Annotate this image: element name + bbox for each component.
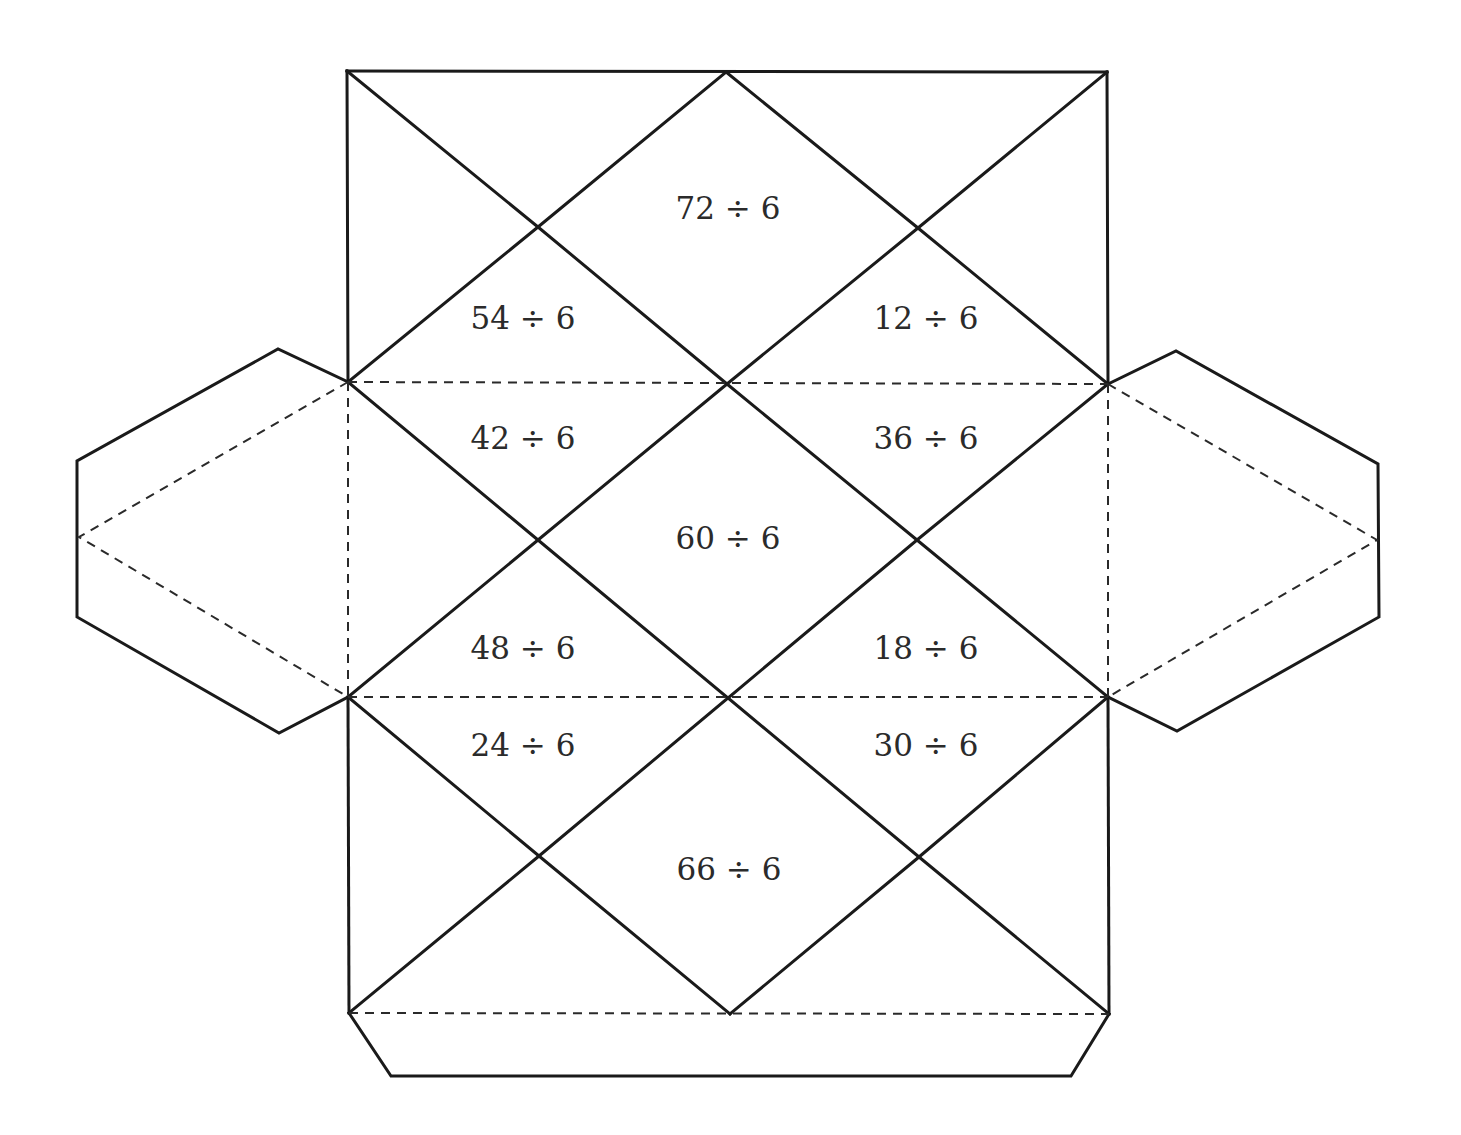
face-label-lower-left: 24 ÷ 6: [471, 727, 576, 763]
face-label-mid-lower-right: 18 ÷ 6: [874, 630, 979, 666]
face-label-upper-left: 54 ÷ 6: [471, 300, 576, 336]
face-labels: 72 ÷ 6 54 ÷ 6 12 ÷ 6 42 ÷ 6 36 ÷ 6 60 ÷ …: [471, 190, 979, 887]
face-label-mid-upper-left: 42 ÷ 6: [471, 420, 576, 456]
face-label-mid-upper-right: 36 ÷ 6: [874, 420, 979, 456]
octahedron-net: 72 ÷ 6 54 ÷ 6 12 ÷ 6 42 ÷ 6 36 ÷ 6 60 ÷ …: [0, 0, 1461, 1135]
face-label-bottom-center: 66 ÷ 6: [677, 851, 782, 887]
face-label-mid-lower-left: 48 ÷ 6: [471, 630, 576, 666]
face-label-center: 60 ÷ 6: [676, 520, 781, 556]
face-label-lower-right: 30 ÷ 6: [874, 727, 979, 763]
face-label-top-center: 72 ÷ 6: [676, 190, 781, 226]
face-label-upper-right: 12 ÷ 6: [874, 300, 979, 336]
